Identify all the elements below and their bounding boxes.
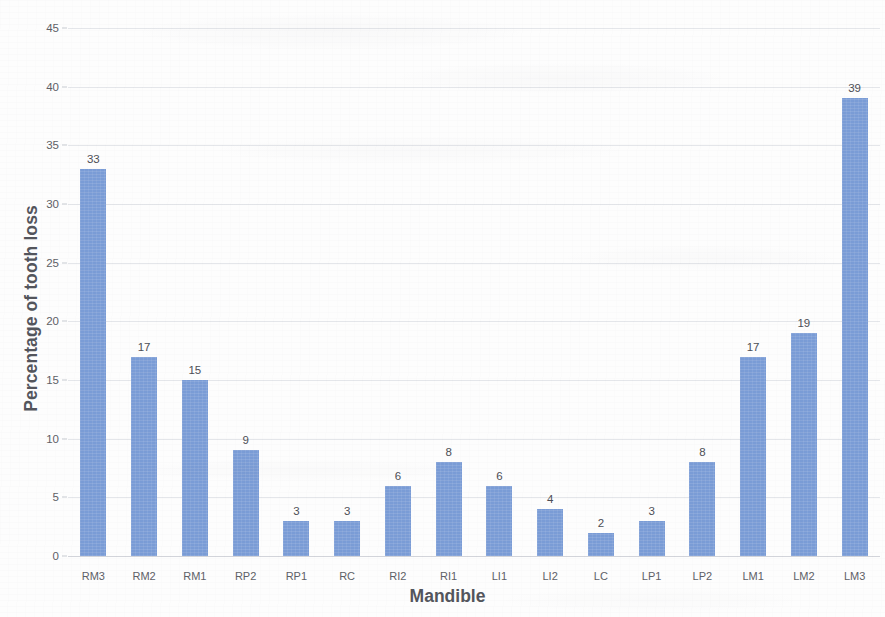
- plot-area: 051015202530354045 33RM317RM215RM19RP23R…: [68, 28, 880, 556]
- y-tick-mark: [62, 86, 67, 87]
- x-tick-label: RI1: [440, 570, 457, 582]
- gridline: [68, 556, 880, 557]
- bar: [182, 380, 208, 556]
- x-tick-label: LP2: [693, 570, 713, 582]
- x-axis-title-text: Mandible: [410, 586, 486, 606]
- y-tick-label: 15: [46, 374, 59, 386]
- x-tick-label: LI2: [542, 570, 557, 582]
- bar: [131, 357, 157, 556]
- bar-value-label: 4: [547, 493, 553, 505]
- bar-group: 3LP1: [626, 28, 677, 556]
- bar-value-label: 2: [598, 517, 604, 529]
- bar-group: 8LP2: [677, 28, 728, 556]
- y-tick-label: 35: [46, 139, 59, 151]
- bar: [283, 521, 309, 556]
- bar-group: 19LM2: [779, 28, 830, 556]
- y-tick-label: 20: [46, 315, 59, 327]
- bar: [689, 462, 715, 556]
- y-tick-label: 40: [46, 81, 59, 93]
- bar-group: 3RP1: [271, 28, 322, 556]
- y-tick-mark: [62, 380, 67, 381]
- bar: [588, 533, 614, 556]
- x-tick-label: RM1: [183, 570, 206, 582]
- bar-value-label: 8: [445, 446, 451, 458]
- y-axis-title-text: Percentage of tooth loss: [21, 205, 42, 412]
- x-tick-label: RM2: [133, 570, 156, 582]
- bar: [385, 486, 411, 556]
- y-tick-label: 10: [46, 433, 59, 445]
- x-tick-label: RI2: [389, 570, 406, 582]
- bar-value-label: 3: [344, 505, 350, 517]
- bar-value-label: 39: [848, 82, 861, 94]
- x-tick-label: LM3: [844, 570, 865, 582]
- y-tick-label: 45: [46, 22, 59, 34]
- y-tick-label: 25: [46, 257, 59, 269]
- y-tick-mark: [62, 497, 67, 498]
- bar-group: 17LM1: [728, 28, 779, 556]
- bar-value-label: 6: [395, 470, 401, 482]
- x-tick-label: RP2: [235, 570, 256, 582]
- y-tick-mark: [62, 262, 67, 263]
- bar-value-label: 3: [648, 505, 654, 517]
- bar-value-label: 9: [242, 434, 248, 446]
- bar-group: 39LM3: [829, 28, 880, 556]
- bar: [740, 357, 766, 556]
- bar-group: 2LC: [576, 28, 627, 556]
- y-tick-label: 0: [53, 550, 59, 562]
- bar-value-label: 33: [87, 153, 100, 165]
- x-axis-title: Mandible: [0, 586, 885, 607]
- x-tick-label: RM3: [82, 570, 105, 582]
- x-tick-label: LP1: [642, 570, 662, 582]
- bar-group: 33RM3: [68, 28, 119, 556]
- bar: [80, 169, 106, 556]
- x-tick-label: LM2: [793, 570, 814, 582]
- y-tick-mark: [62, 321, 67, 322]
- bar-value-label: 17: [138, 341, 151, 353]
- bar: [639, 521, 665, 556]
- bar-chart-figure: Percentage of tooth loss 051015202530354…: [0, 0, 885, 617]
- bar-group: 4LI2: [525, 28, 576, 556]
- bar-value-label: 19: [797, 317, 810, 329]
- bar-value-label: 8: [699, 446, 705, 458]
- bar-group: 15RM1: [170, 28, 221, 556]
- x-tick-label: LC: [594, 570, 608, 582]
- bar-group: 6RI2: [373, 28, 424, 556]
- bar-value-label: 15: [188, 364, 201, 376]
- x-tick-label: LI1: [492, 570, 507, 582]
- bar: [233, 450, 259, 556]
- y-tick-mark: [62, 204, 67, 205]
- bar-value-label: 17: [747, 341, 760, 353]
- bar: [486, 486, 512, 556]
- bar-group: 6LI1: [474, 28, 525, 556]
- bar-group: 9RP2: [220, 28, 271, 556]
- x-tick-label: LM1: [742, 570, 763, 582]
- bar-value-label: 6: [496, 470, 502, 482]
- y-axis-title: Percentage of tooth loss: [14, 0, 48, 617]
- bar: [334, 521, 360, 556]
- x-tick-label: RP1: [286, 570, 307, 582]
- bar-value-label: 3: [293, 505, 299, 517]
- x-tick-label: RC: [339, 570, 355, 582]
- bar-series: 33RM317RM215RM19RP23RP13RC6RI28RI16LI14L…: [68, 28, 880, 556]
- bar-group: 8RI1: [423, 28, 474, 556]
- bar-group: 17RM2: [119, 28, 170, 556]
- y-tick-label: 5: [53, 491, 59, 503]
- y-tick-mark: [62, 145, 67, 146]
- y-tick-mark: [62, 28, 67, 29]
- y-tick-label: 30: [46, 198, 59, 210]
- y-tick-mark: [62, 556, 67, 557]
- bar: [842, 98, 868, 556]
- bar-group: 3RC: [322, 28, 373, 556]
- bar: [791, 333, 817, 556]
- bar: [436, 462, 462, 556]
- y-tick-mark: [62, 438, 67, 439]
- bar: [537, 509, 563, 556]
